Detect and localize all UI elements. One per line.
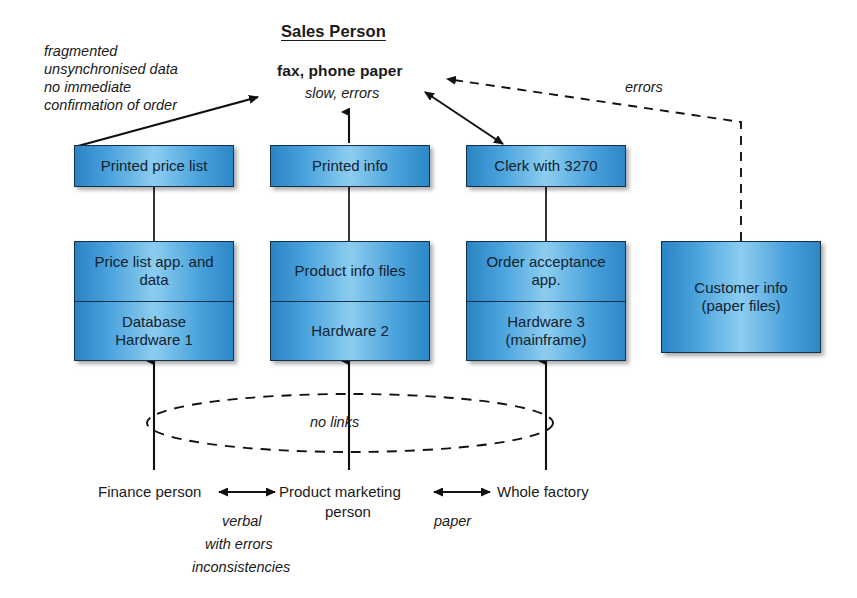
node-order-acceptance-app-label: Order acceptance app. [467,242,625,301]
node-product-info-system[interactable]: Product info files Hardware 2 [270,241,430,361]
link-note-verbal-line-1: verbal [222,513,262,531]
node-printed-price-list-label: Printed price list [75,146,233,186]
channel-headline: fax, phone paper [277,62,403,81]
node-product-info-hardware-line-1: Hardware 2 [311,322,389,340]
node-clerk-with-3270[interactable]: Clerk with 3270 [466,145,626,187]
diagram-canvas: Sales Person fax, phone paper slow, erro… [0,0,857,598]
node-printed-info[interactable]: Printed info [270,145,430,187]
arrow-clerk-to-channel [425,92,503,144]
channel-quality-note: slow, errors [305,85,379,103]
link-note-verbal-line-2: with errors [205,536,273,554]
node-customer-info[interactable]: Customer info (paper files) [661,241,821,353]
node-order-acceptance-system[interactable]: Order acceptance app. Hardware 3 (mainfr… [466,241,626,361]
node-printed-price-list[interactable]: Printed price list [74,145,234,187]
no-links-label: no links [310,414,359,432]
actor-product-marketing-line-1: Product marketing [279,483,401,501]
node-printed-info-label: Printed info [271,146,429,186]
node-price-list-system[interactable]: Price list app. and data Database Hardwa… [74,241,234,361]
left-annotation-line-2: unsynchronised data [44,61,178,79]
node-price-list-hardware-line-2: Hardware 1 [115,331,193,349]
node-order-acceptance-hardware-line-2: (mainframe) [506,331,587,349]
actor-finance-person: Finance person [98,483,201,501]
node-price-list-hardware: Database Hardware 1 [75,301,233,361]
node-customer-info-line-1: Customer info [694,279,787,297]
node-customer-info-line-2: (paper files) [694,297,787,315]
left-annotation-line-4: confirmation of order [44,97,177,115]
errors-label: errors [625,79,663,97]
node-price-list-hardware-line-1: Database [115,313,193,331]
link-note-verbal-line-3: inconsistencies [192,559,290,577]
actor-whole-factory: Whole factory [497,483,589,501]
node-product-info-files-label: Product info files [271,242,429,301]
link-note-paper: paper [434,513,471,531]
left-annotation-line-3: no immediate [44,79,131,97]
node-product-info-hardware: Hardware 2 [271,301,429,361]
node-price-list-app-label: Price list app. and data [75,242,233,301]
node-clerk-with-3270-label: Clerk with 3270 [467,146,625,186]
page-title: Sales Person [281,21,386,41]
left-annotation-line-1: fragmented [44,43,117,61]
actor-product-marketing-line-2: person [325,503,371,521]
node-order-acceptance-hardware: Hardware 3 (mainframe) [467,301,625,361]
node-customer-info-label: Customer info (paper files) [662,242,820,352]
node-order-acceptance-hardware-line-1: Hardware 3 [506,313,587,331]
